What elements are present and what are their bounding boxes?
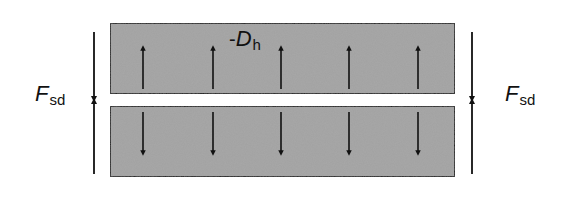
plate-force-diagram: [0, 0, 565, 202]
force-label-left-sub: sd: [49, 91, 65, 108]
force-label-right: Fsd: [505, 83, 535, 105]
plates: [110, 23, 455, 177]
force-label-right-main: F: [505, 81, 518, 106]
pressure-label-main: D: [236, 26, 252, 51]
force-label-right-sub: sd: [519, 91, 535, 108]
force-label-left: Fsd: [35, 83, 65, 105]
force-label-left-main: F: [35, 81, 48, 106]
top-plate: [110, 23, 455, 94]
pressure-label: -Dh: [229, 28, 261, 50]
bottom-plate: [110, 106, 455, 177]
pressure-label-sub: h: [253, 36, 261, 53]
pressure-label-prefix: -: [229, 28, 236, 50]
